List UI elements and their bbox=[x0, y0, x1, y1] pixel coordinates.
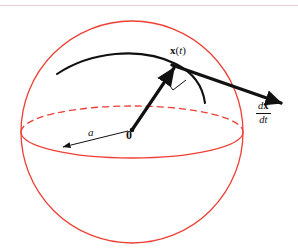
origin-label: 0 bbox=[126, 129, 132, 141]
position-vector-arrow bbox=[132, 68, 174, 130]
radius-label: a bbox=[88, 127, 94, 138]
velocity-vector-arrow bbox=[172, 65, 281, 103]
position-vector-label: x(t) bbox=[170, 45, 186, 56]
derivative-label: dx dt bbox=[256, 101, 271, 125]
trajectory-curve bbox=[57, 53, 205, 103]
sphere-diagram: x(t) 0 a dx dt bbox=[0, 0, 298, 252]
derivative-x-symbol: x bbox=[263, 100, 268, 111]
derivative-denominator: dt bbox=[256, 114, 271, 126]
radius-arrow bbox=[63, 131, 128, 147]
position-vector-paren-close: ) bbox=[182, 44, 186, 56]
equator-front-solid bbox=[21, 132, 243, 158]
diagram-canvas bbox=[0, 0, 298, 252]
derivative-numerator: dx bbox=[256, 101, 271, 114]
